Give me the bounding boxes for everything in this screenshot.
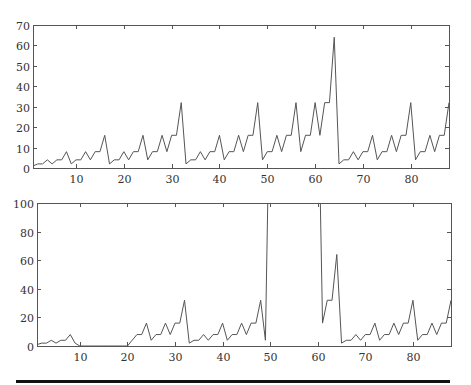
y-tick-label: 60 xyxy=(20,255,34,268)
bottom-rule-divider xyxy=(16,380,450,383)
y-tick-label: 10 xyxy=(16,143,30,156)
top-plot: 1020304050607080010203040506070 xyxy=(16,20,450,187)
x-tick-label: 20 xyxy=(121,351,135,364)
bottom-plot: 1020304050607080020406080100 xyxy=(13,60,452,364)
y-tick-label: 30 xyxy=(16,102,30,115)
y-tick-label: 70 xyxy=(16,20,30,33)
y-tick-label: 0 xyxy=(23,163,30,176)
y-tick-label: 60 xyxy=(16,40,30,53)
y-tick-label: 40 xyxy=(16,81,30,94)
x-tick-label: 70 xyxy=(359,351,373,364)
x-tick-label: 80 xyxy=(407,351,421,364)
plot-frame xyxy=(38,204,452,347)
y-tick-label: 100 xyxy=(13,198,34,211)
x-tick-label: 30 xyxy=(166,173,180,186)
x-tick-label: 20 xyxy=(118,173,132,186)
x-tick-label: 30 xyxy=(169,351,183,364)
x-tick-label: 70 xyxy=(357,173,371,186)
y-tick-label: 40 xyxy=(20,284,34,297)
x-tick-label: 10 xyxy=(70,173,84,186)
y-tick-label: 20 xyxy=(20,312,34,325)
x-tick-label: 40 xyxy=(217,351,231,364)
x-tick-label: 50 xyxy=(264,351,278,364)
x-tick-label: 10 xyxy=(74,351,88,364)
x-tick-label: 60 xyxy=(309,173,323,186)
x-tick-label: 80 xyxy=(405,173,419,186)
x-tick-label: 40 xyxy=(213,173,227,186)
y-tick-label: 20 xyxy=(16,122,30,135)
y-tick-label: 80 xyxy=(20,227,34,240)
data-line xyxy=(33,37,449,166)
chart-canvas: 1020304050607080010203040506070102030405… xyxy=(0,0,471,385)
y-tick-label: 0 xyxy=(27,341,34,354)
y-tick-label: 50 xyxy=(16,61,30,74)
x-tick-label: 50 xyxy=(261,173,275,186)
x-tick-label: 60 xyxy=(312,351,326,364)
plot-frame xyxy=(34,26,450,169)
